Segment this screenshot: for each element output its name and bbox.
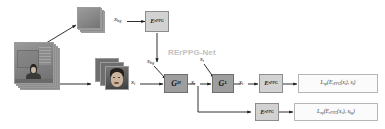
rerppg-net-figure: RErPPG-Net ErPPG GH GL ErPPG ErPPG Lnp(E… <box>0 0 385 129</box>
label-x-i: xi <box>131 79 135 86</box>
loss-bottom-expression: Lnp(ErPPG(xr), sbg) <box>317 109 355 115</box>
generator-gh[interactable]: GH <box>164 74 188 93</box>
video-desk <box>15 79 53 83</box>
loss-top-expression: Lnp(ErPPG(xt), st) <box>321 80 356 86</box>
face-crop-skin <box>111 72 123 87</box>
label-x-r: xr <box>191 79 196 86</box>
label-s-bg: sbg <box>147 58 154 65</box>
background-patch-stack <box>76 6 110 36</box>
generator-gl[interactable]: GL <box>212 74 234 93</box>
input-video-frame-stack <box>14 42 62 92</box>
encoder-rppg-top-branch[interactable]: ErPPG <box>259 74 283 93</box>
generator-gh-sub: H <box>177 81 181 86</box>
face-crop-mouth <box>114 82 119 84</box>
encoder-bg-sub: rPPG <box>154 19 163 23</box>
video-sheet-front <box>14 42 54 84</box>
label-x-bg: xbg <box>114 16 121 23</box>
label-s-t: st <box>200 56 204 63</box>
encoder-top-sub: rPPG <box>268 81 277 85</box>
loss-np-background[interactable]: Lnp(ErPPG(xr), sbg) <box>294 103 378 121</box>
loss-np-target[interactable]: Lnp(ErPPG(xt), st) <box>298 74 378 93</box>
network-title: RErPPG-Net <box>168 48 216 57</box>
label-x-t: xt <box>239 79 243 86</box>
bg-sheet-front <box>77 7 101 29</box>
generator-gl-sub: L <box>224 81 227 86</box>
encoder-bottom-sub: rPPG <box>264 110 273 114</box>
encoder-rppg-background[interactable]: ErPPG <box>145 11 169 32</box>
video-blind <box>39 47 52 65</box>
face-sheet-front <box>105 66 129 90</box>
encoder-rppg-bottom-branch[interactable]: ErPPG <box>255 103 279 121</box>
